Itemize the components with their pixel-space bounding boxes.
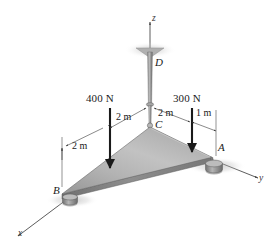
point-label-c: C <box>155 119 162 130</box>
axis-label-z: z <box>152 14 156 24</box>
axis-label-x: x <box>18 229 22 239</box>
cable-dc <box>148 52 153 104</box>
force-label-400n: 400 N <box>86 93 114 104</box>
roller-support-b <box>63 194 78 207</box>
point-label-a: A <box>218 142 225 153</box>
dimension-label-c-right-2m: 2 m <box>158 108 173 118</box>
point-label-d: D <box>155 57 163 68</box>
roller-support-a <box>206 160 223 174</box>
axis-label-y: y <box>259 174 263 184</box>
statics-figure: 400 N 300 N 2 m 2 m 2 m 1 m D C A B z y … <box>0 0 277 249</box>
cable-lower-link <box>149 106 152 125</box>
dimension-label-left-2m: 2 m <box>72 141 87 151</box>
dimension-label-c-left-2m: 2 m <box>116 112 131 122</box>
dimension-label-right-1m: 1 m <box>196 108 211 118</box>
point-label-b: B <box>53 185 60 196</box>
force-label-300n: 300 N <box>173 93 201 104</box>
